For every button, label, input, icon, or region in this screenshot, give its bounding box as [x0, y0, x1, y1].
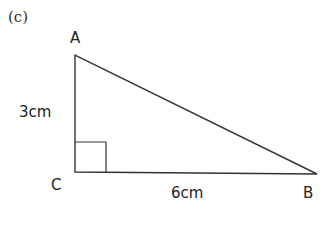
vertex-label-b: B	[303, 186, 313, 201]
vertex-label-a: A	[70, 31, 80, 46]
side-label-ac: 3cm	[19, 105, 51, 120]
triangle-abc	[75, 55, 317, 174]
right-angle-marker	[75, 142, 106, 172]
side-label-cb: 6cm	[171, 186, 203, 201]
vertex-label-c: C	[51, 178, 61, 193]
